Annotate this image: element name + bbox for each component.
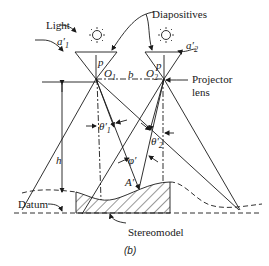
label-o1: O1 [104,68,116,83]
label-diapositives: Diapositives [152,9,207,20]
terrain-curve [22,190,76,193]
label-lens: lens [192,87,210,98]
label-light: Light [46,20,70,31]
label-a-prime: A′ [125,177,134,188]
label-phi: φ′ [128,155,137,166]
label-b: b [128,69,134,80]
label-theta1: θ′1 [99,121,111,136]
stereomodel-shape [76,182,170,213]
label-stereomodel: Stereomodel [128,227,184,238]
label-o2: O2 [146,68,158,83]
label-h: h [56,155,62,166]
label-datum: Datum [18,199,48,210]
figure-caption: (b) [124,245,136,256]
label-a2: a′2 [186,40,198,55]
label-p1: p [98,57,104,68]
label-projector: Projector [192,74,232,85]
label-a1: a′1 [57,36,69,51]
label-theta2: θ′2 [151,136,163,151]
